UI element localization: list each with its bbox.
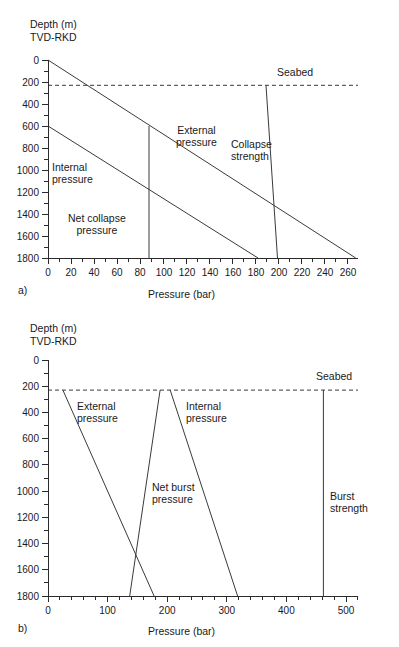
figure-a-plot: 0 200 400 600 800 1000 1200 1400 1600 18…	[0, 0, 399, 312]
svg-text:1000: 1000	[17, 165, 40, 176]
figure-b-net-burst-pressure-label: Net burst pressure	[152, 481, 195, 505]
svg-text:400: 400	[22, 99, 39, 110]
svg-text:140: 140	[202, 267, 219, 278]
svg-text:500: 500	[338, 605, 355, 616]
figure-a-y-ticks: 0 200 400 600 800 1000 1200 1400 1600 18…	[17, 55, 48, 264]
figure-b-y-ticks: 0 200 400 600 800 1000 1200 1400 1600 18…	[17, 355, 48, 602]
figure-a-collapse-design: Depth (m) TVD-RKD 0 200 400 600 800	[0, 0, 399, 312]
svg-text:20: 20	[65, 267, 77, 278]
svg-text:600: 600	[22, 433, 39, 444]
figure-a-external-pressure-label: External pressure	[176, 124, 217, 148]
svg-text:200: 200	[22, 77, 39, 88]
svg-text:800: 800	[22, 459, 39, 470]
figure-a-x-minor-ticks	[60, 258, 336, 262]
svg-text:200: 200	[22, 381, 39, 392]
svg-text:0: 0	[45, 605, 51, 616]
figure-a-panel-letter: a)	[18, 284, 27, 296]
svg-text:600: 600	[22, 121, 39, 132]
svg-text:160: 160	[225, 267, 242, 278]
svg-text:220: 220	[294, 267, 311, 278]
figure-b-x-minor-ticks	[60, 596, 358, 600]
svg-text:1800: 1800	[17, 591, 40, 602]
figure-b-y-minor-ticks	[44, 373, 48, 583]
figure-a-x-ticks: 0 20 40 60 80 100 120 140 160 180 200 22…	[45, 258, 357, 278]
svg-text:100: 100	[156, 267, 173, 278]
figure-b-burst-strength-label: Burst strength	[330, 490, 368, 514]
figure-a-x-axis-title: Pressure (bar)	[148, 288, 215, 300]
svg-text:0: 0	[33, 355, 39, 366]
svg-text:260: 260	[340, 267, 357, 278]
svg-text:1000: 1000	[17, 486, 40, 497]
svg-text:0: 0	[45, 267, 51, 278]
svg-text:1400: 1400	[17, 538, 40, 549]
figure-b-panel-letter: b)	[18, 622, 27, 634]
figure-a-collapse-strength-line	[266, 85, 278, 258]
figure-b-plot: 0 200 400 600 800 1000 1200 1400 1600 18…	[0, 312, 399, 647]
figure-a-internal-pressure-line	[48, 126, 258, 258]
svg-text:400: 400	[278, 605, 295, 616]
svg-text:60: 60	[111, 267, 123, 278]
svg-text:300: 300	[218, 605, 235, 616]
svg-text:1200: 1200	[17, 187, 40, 198]
figure-b-x-ticks: 0 100 200 300 400 500	[45, 596, 355, 616]
svg-text:200: 200	[271, 267, 288, 278]
figure-b-external-pressure-label: External pressure	[77, 400, 118, 424]
svg-text:800: 800	[22, 143, 39, 154]
svg-text:1600: 1600	[17, 564, 40, 575]
figure-b-seabed-label: Seabed	[316, 370, 352, 382]
svg-text:1400: 1400	[17, 209, 40, 220]
svg-text:200: 200	[159, 605, 176, 616]
svg-text:0: 0	[33, 55, 39, 66]
figure-a-collapse-strength-label: Collapse strength	[231, 138, 272, 162]
figure-b-internal-pressure-label: Internal pressure	[186, 400, 227, 424]
svg-text:80: 80	[134, 267, 146, 278]
svg-text:1200: 1200	[17, 512, 40, 523]
figure-a-net-collapse-pressure-label: Net collapse pressure	[68, 212, 126, 236]
figure-b-burst-design: Depth (m) TVD-RKD 0 200 400 600 800	[0, 312, 399, 647]
figure-a-internal-pressure-label: Internal pressure	[52, 161, 93, 185]
svg-text:1600: 1600	[17, 231, 40, 242]
svg-text:40: 40	[88, 267, 100, 278]
svg-text:240: 240	[317, 267, 334, 278]
svg-text:1800: 1800	[17, 253, 40, 264]
svg-text:120: 120	[179, 267, 196, 278]
svg-text:100: 100	[99, 605, 116, 616]
svg-text:400: 400	[22, 407, 39, 418]
figure-a-seabed-label: Seabed	[277, 66, 313, 78]
svg-text:180: 180	[248, 267, 265, 278]
figure-a-y-minor-ticks	[44, 71, 48, 247]
figure-b-x-axis-title: Pressure (bar)	[148, 625, 215, 637]
